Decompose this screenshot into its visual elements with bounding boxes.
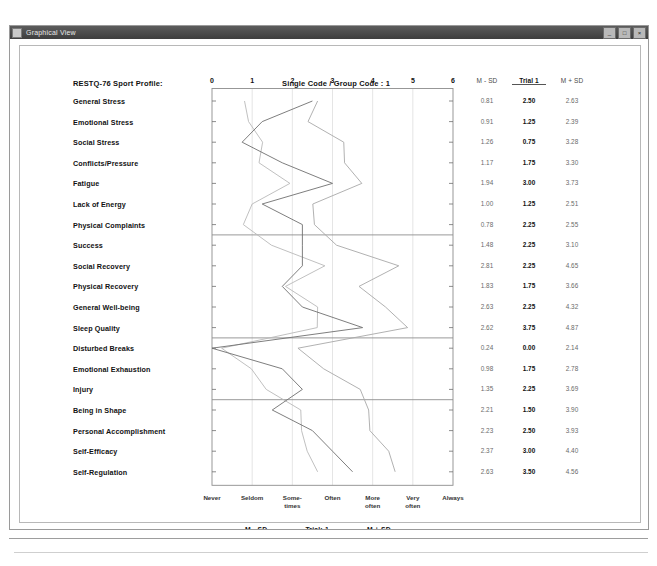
cell-m_plus_sd-row-1: 2.39 [555, 118, 589, 125]
window-client-area: RESTQ-76 Sport Profile: Single Code / Gr… [10, 39, 648, 529]
x-tick-2: 2 [282, 77, 302, 84]
cell-trial-row-0: 2.50 [512, 97, 546, 104]
cell-m_minus_sd-row-8: 2.81 [470, 262, 504, 269]
row-label-general-stress: General Stress [73, 97, 125, 106]
cell-m_plus_sd-row-7: 3.10 [555, 241, 589, 248]
column-header-m_plus_sd: M + SD [555, 77, 589, 84]
window-controls: _ □ × [603, 27, 646, 39]
row-label-injury: Injury [73, 385, 93, 394]
page-divider-bottom [14, 552, 648, 553]
cell-m_minus_sd-row-10: 2.63 [470, 303, 504, 310]
cell-m_plus_sd-row-13: 2.78 [555, 365, 589, 372]
cell-m_minus_sd-row-3: 1.17 [470, 159, 504, 166]
chart-legend: M - SDTrial: 1M + SD [10, 526, 648, 529]
cell-m_plus_sd-row-0: 2.63 [555, 97, 589, 104]
cell-trial-row-2: 0.75 [512, 138, 546, 145]
cell-m_minus_sd-row-11: 2.62 [470, 324, 504, 331]
cell-m_plus_sd-row-10: 4.32 [555, 303, 589, 310]
cell-m_minus_sd-row-17: 2.37 [470, 447, 504, 454]
row-label-social-stress: Social Stress [73, 138, 119, 147]
cell-m_plus_sd-row-14: 3.69 [555, 385, 589, 392]
window-title: Graphical View [26, 29, 603, 36]
cell-trial-row-4: 3.00 [512, 179, 546, 186]
cell-trial-row-10: 2.25 [512, 303, 546, 310]
row-label-self-regulation: Self-Regulation [73, 468, 127, 477]
anchor-label-6: Always [431, 494, 475, 502]
row-label-general-well-being: General Well-being [73, 303, 140, 312]
cell-trial-row-1: 1.25 [512, 118, 546, 125]
cell-trial-row-3: 1.75 [512, 159, 546, 166]
maximize-button[interactable]: □ [618, 27, 631, 39]
cell-m_minus_sd-row-2: 1.26 [470, 138, 504, 145]
legend-trial-label: Trial: 1 [305, 526, 329, 529]
row-label-social-recovery: Social Recovery [73, 262, 130, 271]
cell-trial-row-15: 1.50 [512, 406, 546, 413]
row-label-fatigue: Fatigue [73, 179, 99, 188]
cell-m_plus_sd-row-16: 3.93 [555, 427, 589, 434]
column-header-trial: Trial 1 [512, 77, 546, 85]
cell-trial-row-12: 0.00 [512, 344, 546, 351]
column-header-m_minus_sd: M - SD [470, 77, 504, 84]
anchor-label-2: Some-times [270, 494, 314, 510]
cell-trial-row-13: 1.75 [512, 365, 546, 372]
anchor-label-4: Moreoften [351, 494, 395, 510]
x-tick-0: 0 [202, 77, 222, 84]
row-label-self-efficacy: Self-Efficacy [73, 447, 117, 456]
cell-m_minus_sd-row-9: 1.83 [470, 282, 504, 289]
cell-trial-row-16: 2.50 [512, 427, 546, 434]
cell-m_plus_sd-row-3: 3.30 [555, 159, 589, 166]
cell-m_minus_sd-row-13: 0.98 [470, 365, 504, 372]
cell-m_plus_sd-row-5: 2.51 [555, 200, 589, 207]
row-label-disturbed-breaks: Disturbed Breaks [73, 344, 134, 353]
cell-m_plus_sd-row-17: 4.40 [555, 447, 589, 454]
cell-trial-row-9: 1.75 [512, 282, 546, 289]
anchor-label-3: Often [311, 494, 355, 502]
minimize-button[interactable]: _ [603, 27, 616, 39]
row-label-physical-complaints: Physical Complaints [73, 221, 145, 230]
cell-m_minus_sd-row-18: 2.63 [470, 468, 504, 475]
cell-m_minus_sd-row-14: 1.35 [470, 385, 504, 392]
cell-m_plus_sd-row-18: 4.56 [555, 468, 589, 475]
cell-m_minus_sd-row-7: 1.48 [470, 241, 504, 248]
cell-m_minus_sd-row-12: 0.24 [470, 344, 504, 351]
cell-trial-row-11: 3.75 [512, 324, 546, 331]
row-label-physical-recovery: Physical Recovery [73, 282, 138, 291]
cell-m_plus_sd-row-9: 3.66 [555, 282, 589, 289]
close-button[interactable]: × [633, 27, 646, 39]
cell-m_minus_sd-row-5: 1.00 [470, 200, 504, 207]
row-label-conflicts-pressure: Conflicts/Pressure [73, 159, 138, 168]
anchor-label-5: Veryoften [391, 494, 435, 510]
cell-trial-row-17: 3.00 [512, 447, 546, 454]
cell-m_plus_sd-row-4: 3.73 [555, 179, 589, 186]
cell-m_minus_sd-row-4: 1.94 [470, 179, 504, 186]
row-label-emotional-stress: Emotional Stress [73, 118, 133, 127]
window-titlebar[interactable]: Graphical View _ □ × [10, 26, 648, 39]
legend-m-plus-sd-label: M + SD [367, 526, 391, 529]
cell-trial-row-18: 3.50 [512, 468, 546, 475]
page-divider-top [9, 538, 648, 539]
cell-m_minus_sd-row-6: 0.78 [470, 221, 504, 228]
graphical-view-window: Graphical View _ □ × RESTQ-76 Sport Prof… [9, 25, 649, 530]
cell-m_plus_sd-row-11: 4.87 [555, 324, 589, 331]
row-label-sleep-quality: Sleep Quality [73, 324, 120, 333]
anchor-label-0: Never [190, 494, 234, 502]
row-label-success: Success [73, 241, 103, 250]
cell-trial-row-7: 2.25 [512, 241, 546, 248]
anchor-label-1: Seldom [230, 494, 274, 502]
x-tick-4: 4 [363, 77, 383, 84]
row-label-lack-of-energy: Lack of Energy [73, 200, 126, 209]
row-label-personal-accomplishment: Personal Accomplishment [73, 427, 165, 436]
cell-trial-row-8: 2.25 [512, 262, 546, 269]
x-tick-5: 5 [403, 77, 423, 84]
legend-m-minus-sd-label: M - SD [245, 526, 267, 529]
window-icon [12, 28, 22, 38]
cell-trial-row-14: 2.25 [512, 385, 546, 392]
cell-m_plus_sd-row-15: 3.90 [555, 406, 589, 413]
cell-trial-row-5: 1.25 [512, 200, 546, 207]
cell-m_plus_sd-row-8: 4.65 [555, 262, 589, 269]
row-label-emotional-exhaustion: Emotional Exhaustion [73, 365, 150, 374]
cell-m_plus_sd-row-6: 2.55 [555, 221, 589, 228]
x-tick-3: 3 [323, 77, 343, 84]
cell-m_minus_sd-row-1: 0.91 [470, 118, 504, 125]
cell-m_minus_sd-row-16: 2.23 [470, 427, 504, 434]
